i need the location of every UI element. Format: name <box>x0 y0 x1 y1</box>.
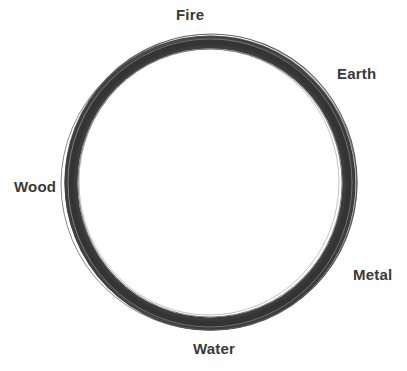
cycle-ring <box>0 0 407 371</box>
label-wood: Wood <box>14 178 56 195</box>
five-elements-diagram: Fire Earth Metal Water Wood <box>0 0 407 371</box>
label-water: Water <box>193 340 235 357</box>
label-earth: Earth <box>337 65 376 82</box>
label-metal: Metal <box>353 266 392 283</box>
label-fire: Fire <box>176 6 204 23</box>
